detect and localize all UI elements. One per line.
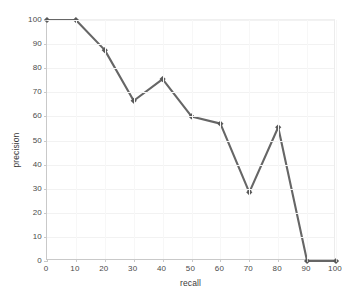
y-tick-label: 100 — [2, 15, 42, 24]
gridline-horizontal — [47, 189, 334, 190]
x-tick-label: 0 — [44, 264, 49, 273]
gridline-vertical — [249, 20, 250, 259]
gridline-horizontal — [47, 92, 334, 93]
y-tick-label: 10 — [2, 231, 42, 240]
y-tick-mark — [44, 68, 47, 69]
gridline-horizontal — [47, 165, 334, 166]
x-tick-label: 20 — [99, 264, 108, 273]
gridline-horizontal — [47, 68, 334, 69]
gridline-horizontal — [47, 116, 334, 117]
gridline-vertical — [220, 20, 221, 259]
gridline-vertical — [307, 20, 308, 259]
y-tick-label: 20 — [2, 207, 42, 216]
x-tick-mark — [336, 259, 337, 262]
y-tick-label: 0 — [2, 256, 42, 265]
x-axis-title: recall — [46, 278, 335, 288]
precision-recall-chart: precision 0102030405060708090100 0102030… — [0, 0, 349, 300]
y-tick-label: 30 — [2, 183, 42, 192]
gridline-horizontal — [47, 44, 334, 45]
x-tick-mark — [134, 259, 135, 262]
y-tick-mark — [44, 92, 47, 93]
gridline-horizontal — [47, 237, 334, 238]
gridline-vertical — [192, 20, 193, 259]
gridline-horizontal — [47, 141, 334, 142]
y-tick-label: 60 — [2, 111, 42, 120]
x-tick-mark — [47, 259, 48, 262]
y-tick-mark — [44, 44, 47, 45]
y-tick-mark — [44, 237, 47, 238]
x-tick-mark — [249, 259, 250, 262]
x-tick-label: 30 — [128, 264, 137, 273]
gridline-vertical — [105, 20, 106, 259]
y-tick-label: 40 — [2, 159, 42, 168]
gridline-vertical — [76, 20, 77, 259]
x-tick-label: 50 — [186, 264, 195, 273]
gridline-vertical — [278, 20, 279, 259]
y-tick-mark — [44, 165, 47, 166]
plot-area — [46, 19, 335, 260]
y-tick-mark — [44, 213, 47, 214]
y-tick-mark — [44, 189, 47, 190]
x-tick-label: 60 — [215, 264, 224, 273]
x-axis-tick-labels: 0102030405060708090100 — [46, 264, 335, 276]
x-tick-label: 100 — [328, 264, 342, 273]
x-tick-label: 80 — [273, 264, 282, 273]
y-tick-label: 80 — [2, 63, 42, 72]
y-tick-mark — [44, 141, 47, 142]
x-tick-mark — [278, 259, 279, 262]
y-tick-label: 70 — [2, 87, 42, 96]
y-tick-mark — [44, 20, 47, 21]
y-tick-label: 50 — [2, 135, 42, 144]
x-tick-mark — [76, 259, 77, 262]
y-tick-mark — [44, 116, 47, 117]
x-tick-label: 70 — [244, 264, 253, 273]
x-tick-label: 40 — [157, 264, 166, 273]
x-tick-mark — [220, 259, 221, 262]
gridline-vertical — [134, 20, 135, 259]
x-tick-mark — [105, 259, 106, 262]
x-tick-mark — [307, 259, 308, 262]
x-tick-label: 90 — [301, 264, 310, 273]
gridline-horizontal — [47, 213, 334, 214]
x-tick-mark — [192, 259, 193, 262]
y-tick-label: 90 — [2, 39, 42, 48]
gridline-vertical — [163, 20, 164, 259]
gridline-horizontal — [47, 20, 334, 21]
y-axis-tick-labels: 0102030405060708090100 — [0, 19, 42, 260]
gridline-vertical — [336, 20, 337, 259]
x-tick-label: 10 — [70, 264, 79, 273]
x-tick-mark — [163, 259, 164, 262]
